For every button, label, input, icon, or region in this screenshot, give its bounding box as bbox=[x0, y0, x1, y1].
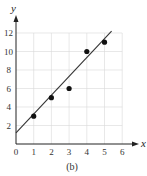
data-point bbox=[67, 86, 72, 91]
y-tick-labels: 2 4 6 8 10 12 bbox=[4, 28, 14, 131]
figure-caption: (b) bbox=[66, 161, 78, 173]
svg-text:3: 3 bbox=[67, 147, 72, 157]
svg-text:4: 4 bbox=[7, 102, 12, 112]
y-axis-arrow-icon bbox=[14, 15, 19, 22]
x-axis-label: x bbox=[140, 137, 146, 149]
scatter-chart: x y 0 1 2 3 4 5 6 2 4 6 8 10 12 (b) bbox=[0, 0, 147, 176]
x-axis-arrow-icon bbox=[132, 142, 139, 147]
svg-text:6: 6 bbox=[120, 147, 125, 157]
data-point bbox=[49, 95, 54, 100]
svg-text:8: 8 bbox=[7, 65, 12, 75]
svg-text:12: 12 bbox=[4, 28, 13, 38]
y-axis-label: y bbox=[10, 2, 16, 14]
x-tick-labels: 0 1 2 3 4 5 6 bbox=[14, 147, 125, 157]
svg-text:2: 2 bbox=[49, 147, 54, 157]
data-point bbox=[102, 40, 107, 45]
svg-text:1: 1 bbox=[31, 147, 36, 157]
fit-line bbox=[16, 31, 112, 133]
svg-text:4: 4 bbox=[85, 147, 90, 157]
svg-text:5: 5 bbox=[102, 147, 107, 157]
svg-text:2: 2 bbox=[7, 121, 12, 131]
data-point bbox=[31, 114, 36, 119]
svg-text:10: 10 bbox=[4, 47, 14, 57]
svg-text:0: 0 bbox=[14, 147, 19, 157]
svg-text:6: 6 bbox=[7, 84, 12, 94]
data-point bbox=[84, 49, 89, 54]
